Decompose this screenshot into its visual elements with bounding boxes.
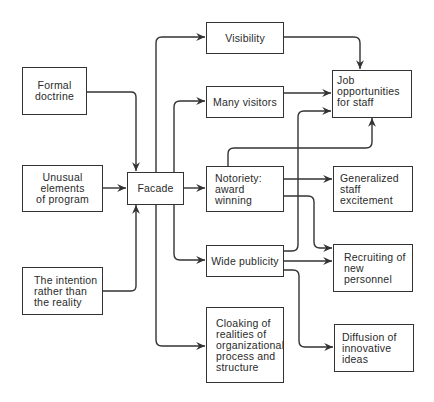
- node-notoriety: Notoriety: award winning: [206, 166, 284, 212]
- edge-intention-facade: [102, 205, 136, 291]
- node-label: Notoriety: award winning: [215, 173, 283, 206]
- node-generalized-excitement: Generalized staff excitement: [333, 166, 413, 212]
- edge-facade-visibility: [156, 37, 205, 172]
- node-label: Diffusion of innovative ideas: [342, 332, 413, 365]
- node-label: Generalized staff excitement: [340, 173, 412, 206]
- edge-formal-facade: [86, 92, 136, 171]
- node-label: Many visitors: [213, 97, 277, 108]
- node-facade: Facade: [127, 172, 184, 205]
- edge-facade-visitors: [174, 101, 205, 172]
- node-label: Formal doctrine: [35, 80, 74, 102]
- edge-notoriety-recruiting: [283, 196, 332, 248]
- node-formal-doctrine: Formal doctrine: [22, 67, 87, 115]
- edge-facade-publicity: [174, 204, 205, 260]
- node-label: Recruiting of new personnel: [344, 252, 412, 285]
- node-visibility: Visibility: [206, 22, 284, 54]
- node-label: Visibility: [225, 33, 265, 44]
- edge-facade-cloaking: [156, 204, 205, 346]
- edge-visibility-job: [283, 37, 360, 69]
- node-wide-publicity: Wide publicity: [206, 245, 284, 277]
- node-intention: The intention rather than the reality: [22, 267, 103, 315]
- node-cloaking: Cloaking of realities of organizational …: [206, 307, 284, 383]
- node-label: Facade: [137, 183, 173, 194]
- node-label: Wide publicity: [211, 256, 279, 267]
- node-label: Unusual elements of program: [36, 172, 89, 205]
- node-recruiting: Recruiting of new personnel: [333, 244, 413, 292]
- node-label: Cloaking of realities of organizational …: [216, 318, 284, 373]
- node-job-opportunities: Job opportunities for staff: [332, 70, 412, 118]
- node-diffusion: Diffusion of innovative ideas: [334, 324, 414, 372]
- node-label: The intention rather than the reality: [34, 275, 97, 308]
- edge-notoriety-job: [228, 118, 372, 166]
- node-many-visitors: Many visitors: [206, 86, 284, 118]
- node-label: Job opportunities for staff: [337, 75, 411, 108]
- edge-publicity-job: [283, 111, 331, 251]
- node-unusual-elements: Unusual elements of program: [22, 165, 103, 212]
- edge-publicity-diffusion: [283, 270, 333, 347]
